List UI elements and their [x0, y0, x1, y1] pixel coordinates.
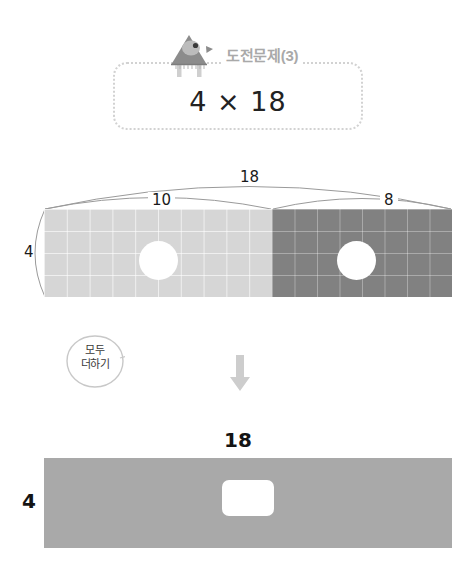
parts-diagram: 18 10 8 4 [0, 160, 476, 310]
left-part-width-label: 10 [148, 192, 175, 209]
result-width-label: 18 [224, 428, 252, 452]
result-diagram: 18 4 [0, 415, 476, 567]
hint-text: 모두 더하기 [65, 344, 125, 372]
result-height-label: 4 [22, 489, 36, 513]
right-part-width-label: 8 [380, 192, 398, 209]
hint-text-line-2: 더하기 [65, 358, 125, 372]
circle-hole-right [337, 241, 376, 280]
down-arrow-icon [228, 355, 252, 395]
bird-triangle-icon [166, 33, 214, 81]
height-label: 4 [20, 244, 38, 261]
page-title: 도전문제(3) [221, 46, 303, 66]
hint-text-line-1: 모두 [65, 344, 125, 358]
answer-input[interactable] [222, 480, 274, 516]
circle-hole-left [139, 241, 178, 280]
equation-text: 4 × 18 [113, 82, 363, 122]
total-width-label: 18 [236, 169, 263, 186]
